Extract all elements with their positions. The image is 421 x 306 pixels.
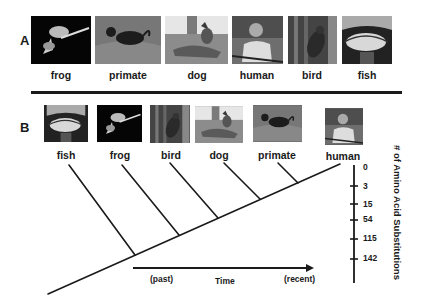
time-arrow-head xyxy=(306,264,314,272)
scale-tick-label-0: 0 xyxy=(363,162,368,172)
branch-fish xyxy=(69,165,135,255)
time-axis-label: Time xyxy=(215,276,235,286)
branch-frog xyxy=(122,165,179,235)
scale-tick-label-15: 15 xyxy=(363,199,372,209)
time-start-label: (past) xyxy=(150,274,173,284)
scale-tick-label-142: 142 xyxy=(363,253,377,263)
scale-axis-label: # of Amino Acid Substitutions xyxy=(392,145,403,280)
time-end-label: (recent) xyxy=(284,274,315,284)
phylogenetic-tree xyxy=(0,0,421,306)
branch-primate xyxy=(278,163,298,183)
scale-tick-label-54: 54 xyxy=(363,214,372,224)
scale-tick-label-3: 3 xyxy=(363,181,368,191)
scale-tick-label-115: 115 xyxy=(363,233,377,243)
branch-dog xyxy=(224,163,260,199)
branch-bird xyxy=(170,163,218,218)
